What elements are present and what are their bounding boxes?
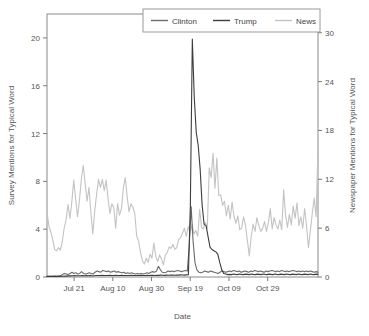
x-tick-label: Oct 09: [217, 284, 241, 293]
series-line-trump: [47, 39, 318, 276]
y-tick-label: 0: [36, 273, 41, 282]
legend-label-news: News: [296, 17, 316, 26]
x-tick-label: Aug 10: [100, 284, 126, 293]
x-tick-label: Jul 21: [63, 284, 85, 293]
legend-label-clinton: Clinton: [172, 17, 197, 26]
y-axis-left-ticks: 048121620: [31, 34, 47, 282]
data-series-group: [47, 39, 318, 276]
line-chart: Jul 21Aug 10Aug 30Sep 19Oct 09Oct 29 048…: [0, 0, 369, 336]
y-tick-label: 8: [36, 177, 41, 186]
y-tick-label: 20: [31, 34, 40, 43]
legend-box: [143, 9, 320, 32]
y-axis-right-title: Newspaper Mentions for Typical Word: [348, 78, 357, 213]
x-tick-label: Aug 30: [139, 284, 165, 293]
x-tick-label: Sep 19: [178, 284, 204, 293]
y2-tick-label: 24: [325, 78, 334, 87]
x-axis-title: Date: [174, 312, 191, 321]
y-axis-right-ticks: 0612182430: [318, 29, 334, 282]
chart-legend: ClintonTrumpNews: [143, 9, 320, 32]
y2-tick-label: 0: [325, 273, 330, 282]
y2-tick-label: 30: [325, 29, 334, 38]
y2-tick-label: 18: [325, 126, 334, 135]
y-tick-label: 12: [31, 130, 40, 139]
y2-tick-label: 12: [325, 175, 334, 184]
x-tick-label: Oct 29: [256, 284, 280, 293]
series-line-news: [47, 147, 318, 265]
y-tick-label: 4: [36, 225, 41, 234]
y-axis-left-title: Survey Mentions for Typical Word: [7, 86, 16, 205]
y-tick-label: 16: [31, 82, 40, 91]
plot-border: [47, 14, 318, 277]
y2-tick-label: 6: [325, 224, 330, 233]
chart-container: Jul 21Aug 10Aug 30Sep 19Oct 09Oct 29 048…: [0, 0, 369, 336]
x-axis-ticks: Jul 21Aug 10Aug 30Sep 19Oct 09Oct 29: [63, 277, 280, 293]
plot-frame: [47, 14, 318, 277]
legend-label-trump: Trump: [234, 17, 257, 26]
series-line-clinton: [47, 206, 318, 276]
